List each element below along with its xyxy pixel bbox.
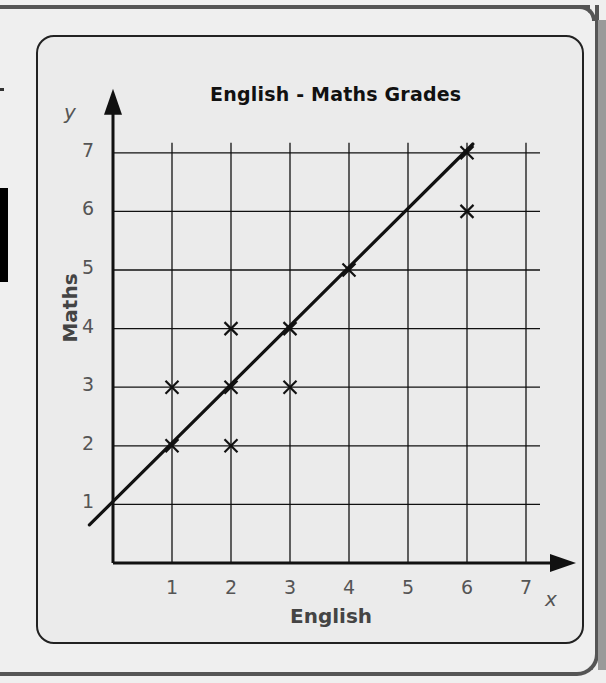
- y-tick-label: 7: [76, 139, 100, 161]
- x-axis-variable: x: [545, 587, 557, 611]
- x-tick-label: 4: [337, 576, 361, 598]
- x-axis-arrow-icon: [550, 554, 576, 572]
- x-tick-label: 3: [278, 576, 302, 598]
- x-tick-label: 6: [455, 576, 479, 598]
- y-tick-label: 6: [76, 197, 100, 219]
- line-of-best-fit: [89, 144, 473, 525]
- x-axis-label: English: [290, 604, 372, 628]
- x-tick-label: 7: [514, 576, 538, 598]
- x-tick-label: 5: [396, 576, 420, 598]
- y-axis-arrow-icon: [104, 89, 122, 115]
- x-tick-label: 1: [160, 576, 184, 598]
- y-axis-label: Maths: [58, 268, 82, 348]
- y-tick-label: 3: [76, 373, 100, 395]
- x-tick-label: 2: [219, 576, 243, 598]
- y-axis-variable: y: [64, 100, 76, 124]
- y-tick-label: 1: [76, 490, 100, 512]
- y-tick-label: 2: [76, 432, 100, 454]
